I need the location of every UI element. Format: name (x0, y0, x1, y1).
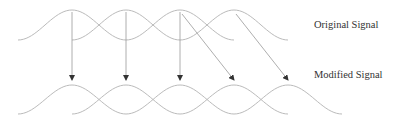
modified-window-4 (180, 85, 288, 114)
modified-window-2 (72, 85, 180, 114)
modified-signal-label: Modified Signal (314, 69, 383, 80)
original-window-4 (180, 10, 288, 40)
modified-window-3 (126, 85, 234, 114)
modified-window-1 (18, 85, 126, 114)
arrow-icon-5 (236, 14, 288, 80)
original-signal-label: Original Signal (314, 19, 378, 30)
modified-signal-windows (18, 85, 342, 114)
modified-window-5 (234, 85, 342, 114)
mapping-arrows (72, 12, 288, 80)
original-signal-windows (18, 10, 288, 40)
